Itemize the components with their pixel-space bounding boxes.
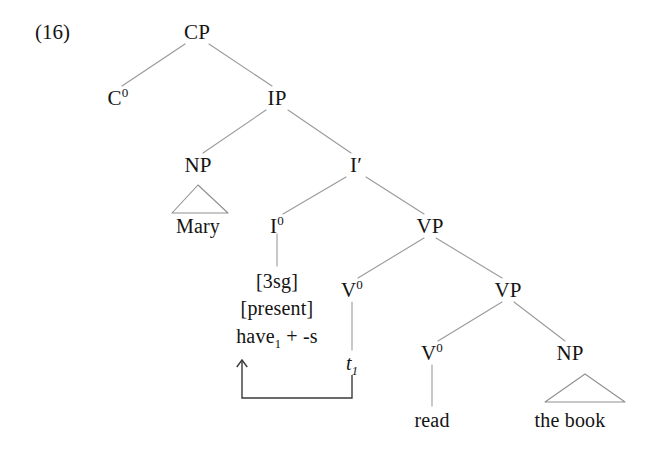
node-np-subject: NP	[184, 155, 211, 176]
node-np-subject-label: NP	[184, 153, 211, 177]
head-movement-arrow	[237, 360, 352, 398]
node-c0: C0	[108, 88, 129, 109]
node-vp-lower-label: VP	[494, 278, 521, 302]
feature-3sg: [3sg]	[256, 271, 298, 291]
example-number: (16)	[35, 20, 70, 45]
node-cp-label: CP	[184, 20, 210, 44]
leaf-the-book-label: the book	[534, 409, 605, 431]
node-v0-upper-label: V	[341, 278, 356, 302]
leaf-mary-label: Mary	[176, 215, 220, 237]
leaf-mary: Mary	[176, 216, 220, 236]
node-ip-label: IP	[267, 86, 286, 110]
trace-t1: t1	[346, 353, 358, 373]
leaf-triangles	[172, 185, 625, 402]
node-v0-lower-label: V	[421, 341, 436, 365]
node-c0-label: C	[108, 86, 122, 110]
node-v0-lower: V0	[421, 343, 443, 364]
vp-upper-to-v0	[358, 238, 424, 278]
node-v0-lower-superscript: 0	[436, 340, 443, 355]
ibar-to-vp-upper	[366, 177, 424, 214]
node-cp: CP	[184, 22, 210, 43]
feature-present-label: [present]	[241, 297, 314, 319]
ibar-to-i0	[283, 177, 346, 214]
node-vp-upper: VP	[416, 216, 443, 237]
node-i0: I0	[270, 216, 284, 237]
ip-to-np	[203, 110, 266, 153]
node-np-object-label: NP	[556, 341, 583, 365]
movement-arrow-shaft	[242, 360, 352, 398]
vp-lower-to-v0-lower	[438, 302, 502, 341]
leaf-read: read	[414, 410, 449, 430]
node-i-bar: I′	[350, 155, 362, 176]
leaf-read-label: read	[414, 409, 449, 431]
leaf-have-suffix: + -s	[281, 325, 318, 347]
ip-to-ibar	[288, 110, 351, 153]
node-np-object: NP	[556, 343, 583, 364]
leaf-the-book: the book	[534, 410, 605, 430]
node-i0-superscript: 0	[277, 213, 284, 228]
node-ip: IP	[267, 88, 286, 109]
tree-branches-svg	[0, 0, 669, 453]
node-i-bar-prime: ′	[357, 153, 362, 177]
vp-upper-to-vp-lower	[436, 238, 502, 278]
figure-canvas: (16) CP C0 IP NP I′ Mary I0 VP [3sg] [pr…	[0, 0, 669, 453]
cp-to-ip	[209, 44, 272, 86]
vp-lower-to-np-object	[514, 302, 565, 341]
node-v0-upper: V0	[341, 280, 363, 301]
feature-present: [present]	[241, 298, 314, 318]
cp-to-c0	[122, 44, 185, 86]
leaf-have-affix: have1 + -s	[236, 326, 318, 346]
node-c0-superscript: 0	[122, 85, 129, 100]
leaf-have-label: have	[236, 325, 275, 347]
the-book-triangle	[545, 374, 625, 402]
feature-3sg-label: [3sg]	[256, 270, 298, 292]
node-vp-lower: VP	[494, 280, 521, 301]
trace-t1-subscript: 1	[352, 364, 358, 378]
node-vp-upper-label: VP	[416, 214, 443, 238]
node-v0-upper-superscript: 0	[356, 277, 363, 292]
mary-triangle	[172, 185, 228, 213]
